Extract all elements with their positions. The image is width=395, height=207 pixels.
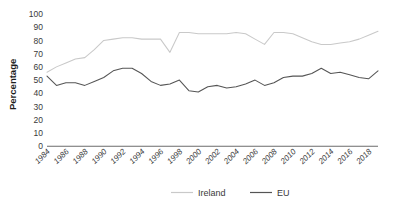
legend-label-eu: EU	[277, 188, 290, 198]
x-axis-tick-label: 2018	[354, 147, 374, 167]
y-axis-tick-label: 40	[34, 88, 44, 98]
y-axis-tick-label: 20	[34, 115, 44, 125]
x-axis-tick-label: 2014	[316, 147, 336, 167]
y-axis-tick-label: 60	[34, 62, 44, 72]
y-axis-tick-label: 100	[29, 9, 43, 19]
x-axis-tick-label: 2008	[259, 147, 279, 167]
y-axis-tick-labels: 0102030405060708090100	[29, 9, 43, 151]
x-axis-tick-label: 2002	[202, 147, 222, 167]
line-chart: Percentage 0102030405060708090100 198419…	[0, 0, 395, 207]
y-axis-title-text: Percentage	[7, 59, 18, 110]
y-axis-tick-label: 90	[34, 22, 44, 32]
plot-series-group	[47, 31, 378, 92]
x-axis-tick-label: 2004	[221, 147, 241, 167]
y-axis-title: Percentage	[7, 59, 18, 110]
x-axis-tick-label: 1992	[109, 147, 128, 166]
y-axis-tick-label: 30	[34, 102, 44, 112]
x-axis-tick-label: 1994	[128, 147, 147, 166]
y-axis-tick-label: 70	[34, 49, 44, 59]
x-axis-tick-label: 1988	[71, 147, 90, 166]
x-axis-tick-label: 1984	[33, 147, 52, 166]
chart-legend: IrelandEU	[171, 188, 290, 198]
x-axis-tick-label: 2000	[184, 147, 204, 167]
x-axis-tick-label: 1996	[146, 147, 165, 166]
x-axis-tick-label: 2006	[240, 147, 260, 167]
x-axis-tick-labels: 1984198619881990199219941996199820002002…	[33, 147, 374, 167]
x-axis-tick-label: 2016	[335, 147, 355, 167]
x-axis-tick-label: 1986	[52, 147, 71, 166]
series-line-ireland	[47, 31, 378, 72]
chart-canvas: Percentage 0102030405060708090100 198419…	[0, 0, 395, 207]
x-axis-tick-label: 1998	[165, 147, 184, 166]
x-axis-tick-label: 2010	[278, 147, 298, 167]
x-axis-tick-label: 1990	[90, 147, 109, 166]
y-axis-tick-label: 50	[34, 75, 44, 85]
series-line-eu	[47, 68, 378, 92]
legend-label-ireland: Ireland	[198, 188, 226, 198]
x-axis-tick-label: 2012	[297, 147, 317, 167]
y-axis-tick-label: 10	[34, 128, 44, 138]
y-axis-tick-label: 80	[34, 36, 44, 46]
